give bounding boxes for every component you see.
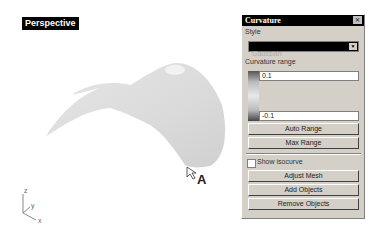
range-max-input[interactable]: 0.1 (259, 71, 359, 81)
show-isocurve-label: Show isocurve (257, 158, 303, 165)
point-annotation: A (197, 172, 206, 187)
add-objects-button[interactable]: Add Objects (248, 184, 359, 196)
max-range-button[interactable]: Max Range (248, 137, 359, 149)
close-button[interactable]: ✕ (353, 16, 362, 24)
panel-title: Curvature (245, 16, 281, 25)
chevron-down-icon[interactable]: ▼ (349, 43, 357, 50)
style-value: Gaussian (249, 50, 282, 57)
remove-objects-button[interactable]: Remove Objects (248, 198, 359, 210)
auto-range-button[interactable]: Auto Range (248, 123, 359, 135)
axis-y-label: y (31, 202, 35, 209)
axis-z-label: z (24, 187, 28, 194)
range-min-input[interactable]: -0.1 (259, 111, 359, 121)
divider (246, 153, 361, 155)
curvature-range-label: Curvature range (245, 58, 296, 65)
perspective-viewport[interactable]: Perspective A z y x (0, 0, 236, 239)
panel-titlebar[interactable]: Curvature ✕ (242, 15, 364, 26)
close-icon: ✕ (355, 17, 360, 23)
axis-x-label: x (38, 217, 42, 224)
axis-indicator: z y x (18, 188, 58, 228)
show-isocurve-checkbox[interactable] (247, 159, 256, 168)
style-label: Style (245, 28, 261, 35)
adjust-mesh-button[interactable]: Adjust Mesh (248, 170, 359, 182)
style-dropdown[interactable]: Gaussian ▼ (248, 41, 359, 52)
curvature-color-scale (248, 71, 259, 121)
curvature-panel: Curvature ✕ Style Gaussian ▼ Curvature r… (241, 14, 365, 219)
